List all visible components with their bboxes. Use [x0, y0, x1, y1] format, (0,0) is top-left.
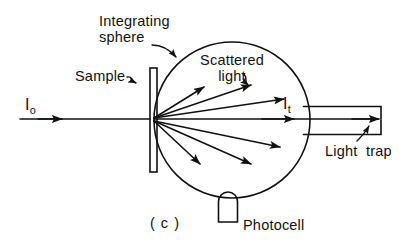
incident-intensity-subscript: o	[30, 104, 36, 116]
scattered-ray-up-3	[154, 99, 284, 118]
label-incident-intensity: Io	[25, 96, 36, 117]
transmitted-intensity-subscript: t	[288, 103, 291, 115]
label-sample: Sample	[75, 69, 125, 85]
figure-caption: ( c )	[150, 216, 180, 232]
scattered-ray-up-2	[154, 85, 251, 118]
light-trap-top-wall	[304, 107, 382, 120]
label-light-trap: Light trap	[325, 144, 392, 160]
label-scattered-light: Scattered light	[187, 53, 277, 84]
scattered-ray-down-3	[154, 121, 200, 164]
light-trap-bottom-wall	[304, 120, 382, 135]
pointer-light-trap	[357, 126, 369, 141]
pointer-integrating-sphere	[152, 45, 176, 57]
scattered-ray-down-1	[154, 121, 280, 147]
optical-diagram	[0, 0, 415, 252]
label-transmitted-intensity: It	[283, 95, 291, 116]
scattered-ray-up-1	[154, 87, 204, 118]
scattered-ray-down-2	[154, 121, 251, 164]
figure-root: Integrating sphere Scattered light Sampl…	[0, 0, 415, 252]
pointer-sample	[127, 77, 136, 83]
label-photocell: Photocell	[243, 218, 304, 234]
label-integrating-sphere: Integrating sphere	[99, 14, 170, 45]
